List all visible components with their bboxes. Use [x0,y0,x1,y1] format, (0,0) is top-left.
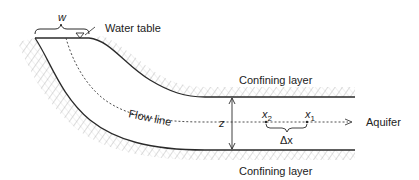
w-label: w [58,11,67,23]
flow-line-label: Flow line [128,107,173,128]
confining-layer-top-label: Confining layer [239,74,313,86]
confining-layer-bottom-label: Confining layer [239,165,313,177]
upper-confining-layer [89,36,355,97]
aquifer-diagram: w Water table Confining layer Confining … [0,0,419,180]
x1-point [306,121,309,124]
delta-x-brace [266,124,307,132]
x2-label: x2 [261,108,273,123]
x1-label: x1 [304,108,316,123]
lower-confining-layer [18,38,355,160]
flow-arrow-icon [345,119,352,125]
w-brace [35,24,89,34]
z-label: z [218,117,225,129]
delta-x-label: Δx [280,134,293,146]
water-table-label: Water table [105,22,161,34]
aquifer-label: Aquifer [366,116,401,128]
z-arrow [229,98,235,149]
